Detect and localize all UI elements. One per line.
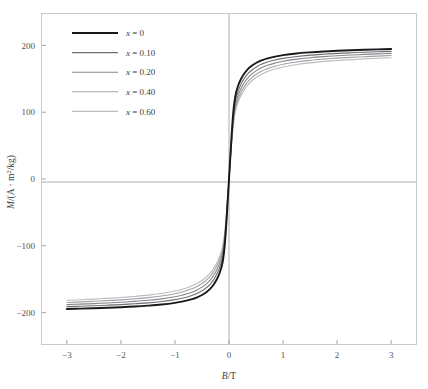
y-axis-title: M/(A · m2/kg) [5,155,17,210]
x-tick-label-4: 1 [281,350,286,360]
figure-background [0,0,428,389]
x-tick-label-6: 3 [389,350,394,360]
svg-text:M/(A · m2/kg): M/(A · m2/kg) [5,155,17,210]
x-tick-label-5: 2 [335,350,340,360]
y-tick-label-4: 200 [22,41,36,51]
x-tick-label-2: −1 [170,350,180,360]
y-tick-label-1: −100 [16,241,35,251]
x-axis-title: B/T [222,371,236,381]
legend-label-4: x = 0.60 [125,107,156,117]
x-tick-label-1: −2 [116,350,126,360]
magnetization-curve-figure: −3−2−10123 −200−1000100200 B/T M/(A · m2… [0,0,428,389]
y-tick-label-3: 100 [22,107,36,117]
y-tick-label-0: −200 [16,308,35,318]
legend-label-3: x = 0.40 [125,87,156,97]
y-tick-label-2: 0 [31,174,36,184]
chart-svg: −3−2−10123 −200−1000100200 B/T M/(A · m2… [0,0,428,389]
x-tick-label-3: 0 [227,350,232,360]
legend-label-0: x = 0 [125,28,145,38]
legend-label-1: x = 0.10 [125,48,156,58]
legend-label-2: x = 0.20 [125,67,156,77]
x-tick-label-0: −3 [62,350,72,360]
